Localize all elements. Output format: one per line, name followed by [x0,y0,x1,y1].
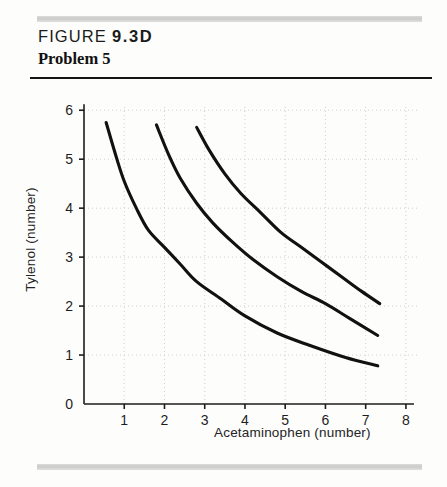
y-axis-title: Tylenol (number) [23,155,38,325]
y-axis-tick-label: 3 [65,249,73,265]
y-axis-tick-label: 1 [65,347,73,363]
indifference-curve-1 [106,122,378,365]
top-decorative-bar [37,16,422,22]
figure-caption: FIGURE9.3D [38,27,153,46]
figure-number: 9.3D [112,27,153,45]
problem-title: Problem 5 [38,49,111,69]
header-divider [30,77,432,79]
y-axis-tick-label: 5 [65,151,73,167]
x-axis-tick-label: 8 [402,412,410,428]
indifference-curve-2 [156,125,377,336]
x-axis-title: Acetaminophen (number) [214,425,371,440]
y-axis-tick-label: 0 [65,396,73,412]
indifference-curve-3 [197,127,380,303]
figure-page: FIGURE9.3D Problem 5 012345612345678 Tyl… [0,0,447,487]
figure-label: FIGURE [38,27,107,45]
x-axis-tick-label: 1 [120,412,128,428]
x-axis-tick-label: 3 [201,412,209,428]
x-axis-tick-label: 2 [161,412,169,428]
chart-container: 012345612345678 Tylenol (number) Acetami… [0,80,447,440]
y-axis-tick-label: 2 [65,298,73,314]
indifference-curve-chart: 012345612345678 [0,80,447,440]
bottom-decorative-bar [37,464,422,470]
y-axis-tick-label: 6 [65,102,73,118]
y-axis-tick-label: 4 [65,200,73,216]
